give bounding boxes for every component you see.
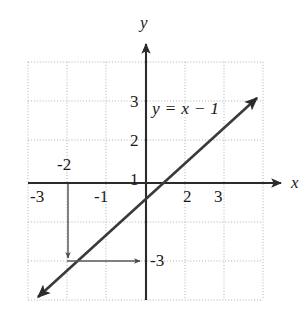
callout-x-minus-2: -2: [57, 156, 71, 173]
y-tick-1: 1: [130, 171, 139, 188]
x-tick-minus-1: -1: [94, 188, 108, 205]
x-tick-3: 3: [214, 188, 223, 205]
x-tick-2: 2: [183, 188, 192, 205]
graph-figure: y x y = x − 1 3 2 1 -3 -1 2 3 -2 -3: [0, 0, 306, 323]
coordinate-plane-svg: [0, 0, 306, 323]
x-axis-label: x: [291, 174, 299, 191]
callout-y-minus-3: -3: [150, 252, 164, 269]
x-tick-minus-3: -3: [30, 188, 44, 205]
y-tick-3: 3: [130, 93, 139, 110]
y-axis-label: y: [140, 14, 148, 31]
y-tick-2: 2: [130, 132, 139, 149]
equation-label: y = x − 1: [152, 100, 219, 118]
line-graph-y-equals-x-minus-1: [38, 98, 257, 297]
